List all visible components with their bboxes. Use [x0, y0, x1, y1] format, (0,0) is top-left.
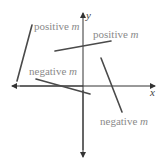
slope-diagram: y x positive m positive m negative m neg… — [0, 0, 165, 165]
segment-steep-negative — [101, 58, 122, 112]
label-shallow-negative: negative m — [29, 65, 77, 77]
label-text: positive — [34, 20, 72, 32]
label-var: m — [131, 28, 139, 40]
label-var: m — [72, 20, 80, 32]
label-var: m — [140, 115, 148, 127]
label-text: positive — [93, 28, 131, 40]
label-shallow-positive: positive m — [93, 28, 139, 40]
label-var: m — [69, 65, 77, 77]
x-axis-label: x — [149, 86, 155, 98]
label-text: negative — [29, 65, 69, 77]
label-steep-negative: negative m — [100, 115, 148, 127]
y-axis-label: y — [85, 9, 91, 21]
label-text: negative — [100, 115, 140, 127]
label-steep-positive: positive m — [34, 20, 80, 32]
